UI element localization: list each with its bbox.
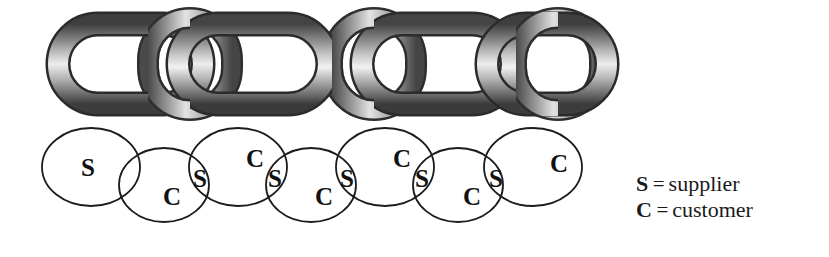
ellipse-label-s: S xyxy=(268,165,282,192)
figure-canvas: SCSCSCSCSCSC S=supplier C=customer xyxy=(0,0,829,257)
ellipse-label-s: S xyxy=(81,154,95,181)
ellipse-label-c: C xyxy=(393,145,411,172)
legend-value-supplier: supplier xyxy=(669,171,740,196)
legend-key-s: S xyxy=(636,171,649,196)
ellipse-label-s: S xyxy=(415,165,429,192)
ellipse-label-s: S xyxy=(193,165,207,192)
ellipse-label-c: C xyxy=(246,145,264,172)
ellipse-letters-group: SCSCSCSCSCSC xyxy=(81,145,568,210)
chain-links-group xyxy=(58,18,607,110)
ellipse-label-s: S xyxy=(489,165,503,192)
legend-equals-0: = xyxy=(649,172,669,196)
ellipse-label-c: C xyxy=(463,183,481,210)
legend-item-supplier: S=supplier xyxy=(636,171,826,197)
ellipse-label-c: C xyxy=(315,183,333,210)
ellipse-label-s: S xyxy=(340,165,354,192)
legend-equals-1: = xyxy=(652,198,672,222)
ellipse-label-c: C xyxy=(163,183,181,210)
legend: S=supplier C=customer xyxy=(636,171,826,223)
legend-item-customer: C=customer xyxy=(636,197,826,223)
legend-value-customer: customer xyxy=(672,197,753,222)
legend-key-c: C xyxy=(636,197,652,222)
ellipse-label-c: C xyxy=(550,150,568,177)
